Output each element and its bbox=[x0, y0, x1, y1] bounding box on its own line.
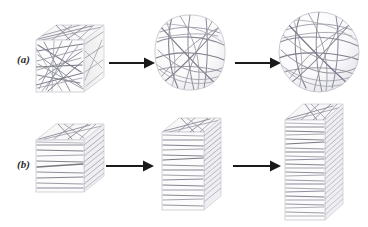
arrow-b-1-head bbox=[143, 161, 154, 172]
row-label-b: (b) bbox=[17, 158, 30, 170]
slab-b-front-layers bbox=[163, 135, 203, 206]
arrow-b-2 bbox=[232, 158, 282, 174]
row-label-a: (a) bbox=[17, 53, 30, 65]
arrow-a-1 bbox=[108, 55, 156, 71]
arrow-a-2 bbox=[234, 55, 282, 71]
stage-b-tall-slab bbox=[158, 114, 230, 224]
stage-b-tall-column bbox=[281, 100, 357, 227]
arrow-b-1 bbox=[105, 158, 155, 174]
stage-a-sphere bbox=[276, 8, 362, 96]
stage-a-cube bbox=[32, 20, 110, 100]
slab-b-front-face bbox=[162, 132, 204, 210]
arrow-b-2-head bbox=[270, 161, 281, 172]
figure-canvas: (a) (b) bbox=[0, 0, 368, 227]
stage-b-cube bbox=[32, 118, 110, 202]
stage-a-rounded-cube bbox=[150, 12, 230, 94]
